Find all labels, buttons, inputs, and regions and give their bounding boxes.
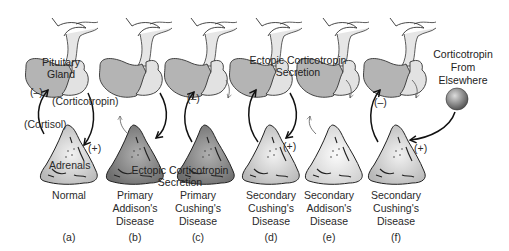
arrow-cortisol-d — [249, 90, 258, 142]
label-elsewhere-line3: Elsewhere — [428, 74, 498, 87]
caption-c-line1: Primary — [158, 189, 238, 202]
panel-letter-e: (e) — [314, 231, 344, 243]
panel-letter-d: (d) — [256, 231, 286, 243]
arrow-cortisol-low-b — [120, 116, 128, 134]
arrow-corticotropin-d — [286, 93, 296, 138]
label-ectopic-d-line1: Ectopic Corticotropin — [238, 54, 358, 66]
label-adrenals: Adrenals — [49, 159, 90, 172]
pituitary-gland-b — [100, 18, 173, 97]
label-ectopic-b: Ectopic Corticotropin Secretion — [120, 164, 240, 188]
pituitary-gland-c — [165, 18, 238, 97]
label-corticotropin-elsewhere: Corticotropin From Elsewhere — [428, 48, 498, 87]
caption-c-line2: Cushing's — [158, 202, 238, 215]
label-cortisol: (Cortisol) — [24, 118, 67, 131]
label-ectopic-b-line2: Secretion — [120, 176, 240, 188]
label-minus-c: (–) — [187, 92, 200, 105]
label-plus-d: (+) — [283, 140, 296, 153]
caption-c: Primary Cushing's Disease — [158, 189, 238, 228]
panel-letter-b: (b) — [120, 231, 150, 243]
adrenal-e — [305, 125, 362, 184]
caption-f-line1: Secondary — [356, 189, 436, 202]
label-plus-a: (+) — [88, 142, 101, 155]
label-corticotropin: (Corticotropin) — [52, 95, 119, 108]
label-elsewhere-line1: Corticotropin — [428, 48, 498, 61]
label-plus-f: (+) — [414, 142, 427, 155]
label-elsewhere-line2: From — [428, 61, 498, 74]
label-ectopic-d-line2: Secretion — [238, 66, 358, 78]
corticotropin-source-icon — [446, 88, 468, 110]
label-minus-a: (–) — [30, 86, 43, 99]
label-ectopic-b-line1: Ectopic Corticotropin — [120, 164, 240, 176]
caption-c-line3: Disease — [158, 215, 238, 228]
caption-f-line2: Cushing's — [356, 202, 436, 215]
caption-f: Secondary Cushing's Disease — [356, 189, 436, 228]
panel-letter-c: (c) — [183, 231, 213, 243]
panel-letter-a: (a) — [54, 231, 84, 243]
panel-letter-f: (f) — [381, 231, 411, 243]
caption-f-line3: Disease — [356, 215, 436, 228]
arrow-cortisol-low-e — [309, 116, 316, 134]
label-ectopic-d: Ectopic Corticotropin Secretion — [238, 54, 358, 78]
pituitary-gland-f — [364, 18, 437, 97]
label-minus-f: (–) — [374, 96, 387, 109]
label-pituitary-line1: Pituitary — [36, 56, 86, 68]
arrow-ectopic-corticotropin-f — [410, 112, 455, 140]
label-pituitary-gland: Pituitary Gland — [36, 56, 86, 80]
label-pituitary-line2: Gland — [36, 68, 86, 80]
arrow-corticotropin-b — [156, 93, 166, 138]
